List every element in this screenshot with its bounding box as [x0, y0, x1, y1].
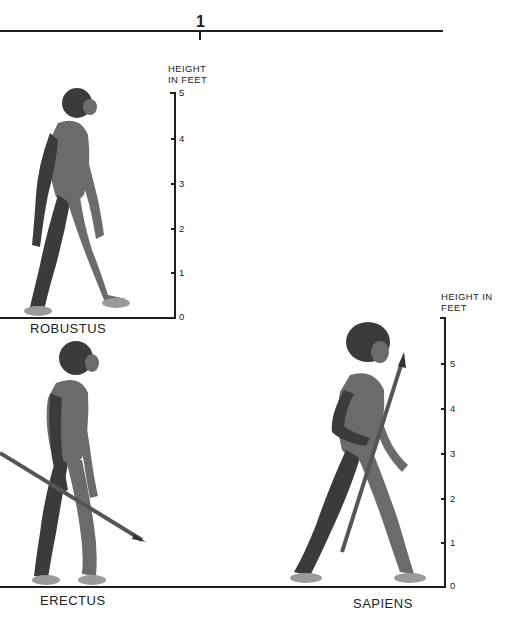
scale-right-tick-4	[441, 408, 445, 410]
scale-right-label-4: 4	[450, 403, 455, 414]
scale-right-top-cap	[440, 317, 445, 319]
scale-right-title-line2: FEET	[441, 302, 467, 313]
scale-left-label-5: 5	[179, 87, 184, 98]
sapiens-figure-illustration	[280, 320, 440, 588]
scale-right-label-2: 2	[450, 493, 455, 504]
scale-left-label-3: 3	[179, 178, 184, 189]
scale-right-axis	[444, 317, 446, 587]
scale-left-top-cap	[170, 92, 175, 94]
scale-left-tick-1	[171, 272, 175, 274]
scale-left-tick-3	[171, 183, 175, 185]
scale-right-label-0: 0	[450, 580, 455, 591]
species-label-sapiens: SAPIENS	[353, 596, 413, 611]
timeline-rule	[0, 30, 443, 32]
scale-right-tick-2	[441, 498, 445, 500]
scale-left-title-line1: HEIGHT	[168, 63, 206, 74]
page-number: 1	[196, 13, 205, 31]
scale-right-tick-3	[441, 453, 445, 455]
scale-left-tick-4	[171, 138, 175, 140]
scale-left-tick-2	[171, 228, 175, 230]
species-label-robustus: ROBUSTUS	[30, 321, 106, 336]
scale-left-label-2: 2	[179, 223, 184, 234]
scale-left-label-0: 0	[179, 311, 184, 322]
scale-left-title-line2: IN FEET	[168, 74, 207, 85]
scale-right-label-5: 5	[450, 358, 455, 369]
erectus-figure-illustration	[0, 338, 160, 588]
scale-right-label-1: 1	[450, 537, 455, 548]
scale-right-label-3: 3	[450, 448, 455, 459]
timeline-marker	[199, 32, 201, 40]
scale-left-label-4: 4	[179, 133, 184, 144]
scale-right-title-line1: HEIGHT IN	[441, 291, 492, 302]
scale-left-axis	[174, 92, 176, 318]
scale-left-label-1: 1	[179, 267, 184, 278]
scale-right-tick-5	[441, 363, 445, 365]
robustus-figure-illustration	[0, 85, 160, 318]
scale-right-tick-1	[441, 542, 445, 544]
species-label-erectus: ERECTUS	[40, 593, 106, 608]
